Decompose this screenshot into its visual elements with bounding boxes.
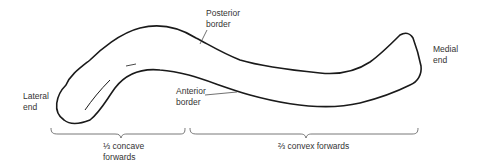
inner-mark bbox=[126, 64, 136, 66]
inner-ridge bbox=[85, 80, 110, 110]
clavicle-outline bbox=[57, 26, 422, 123]
label-concave-third: ⅓ concave forwards bbox=[103, 141, 144, 163]
label-posterior-border: Posterior border bbox=[206, 8, 240, 30]
label-convex-two-thirds: ⅔ convex forwards bbox=[278, 141, 349, 152]
label-medial-end: Medial end bbox=[433, 44, 458, 66]
label-lateral-end: Lateral end bbox=[23, 91, 49, 113]
anterior-pointer bbox=[205, 92, 237, 95]
brace-two-thirds bbox=[190, 128, 418, 138]
label-anterior-border: Anterior border bbox=[176, 86, 206, 108]
brace-one-third bbox=[51, 128, 185, 138]
